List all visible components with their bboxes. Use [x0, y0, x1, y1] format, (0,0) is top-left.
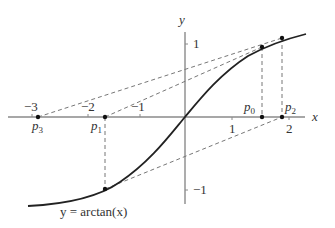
tangent-p0 [105, 47, 262, 117]
label-p3: p3 [31, 118, 44, 135]
point-p2-curve [280, 36, 284, 40]
point-p2-axis [280, 115, 284, 119]
label-p1: p1 [90, 118, 102, 135]
x-axis-label: x [311, 109, 318, 124]
tangent-p1 [105, 117, 282, 189]
x-tick-label-2: 2 [286, 121, 293, 136]
y-tick-label-1: 1 [193, 36, 200, 51]
label-p2: p2 [284, 99, 296, 116]
x-tick-label-1: 1 [229, 121, 236, 136]
label-p0: p0 [243, 99, 256, 116]
x-tick-label-neg1: −1 [131, 99, 145, 114]
point-p0-curve [260, 45, 264, 49]
x-tick-label-neg2: −2 [81, 99, 95, 114]
y-axis-label: y [177, 12, 185, 27]
point-p1-axis [103, 115, 107, 119]
y-tick-label-neg1: −1 [193, 182, 207, 197]
x-tick-label-neg3: −3 [24, 99, 38, 114]
curve-label: y = arctan(x) [60, 204, 127, 219]
point-p0-axis [260, 115, 264, 119]
point-p1-curve [103, 187, 107, 191]
diagram-canvas: y x −3 −2 −1 1 2 1 −1 p0 p2 p1 p3 y = ar… [0, 0, 335, 228]
arctan-curve [28, 34, 306, 206]
